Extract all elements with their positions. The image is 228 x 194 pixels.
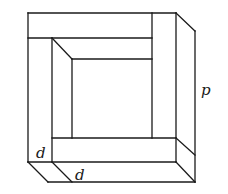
frame-diagram: d d p	[0, 0, 228, 194]
label-d-front: d	[75, 166, 85, 184]
inner-opening	[52, 38, 152, 138]
label-p: p	[201, 81, 211, 99]
label-d-side: d	[36, 144, 46, 162]
outer-front-face	[28, 13, 176, 162]
